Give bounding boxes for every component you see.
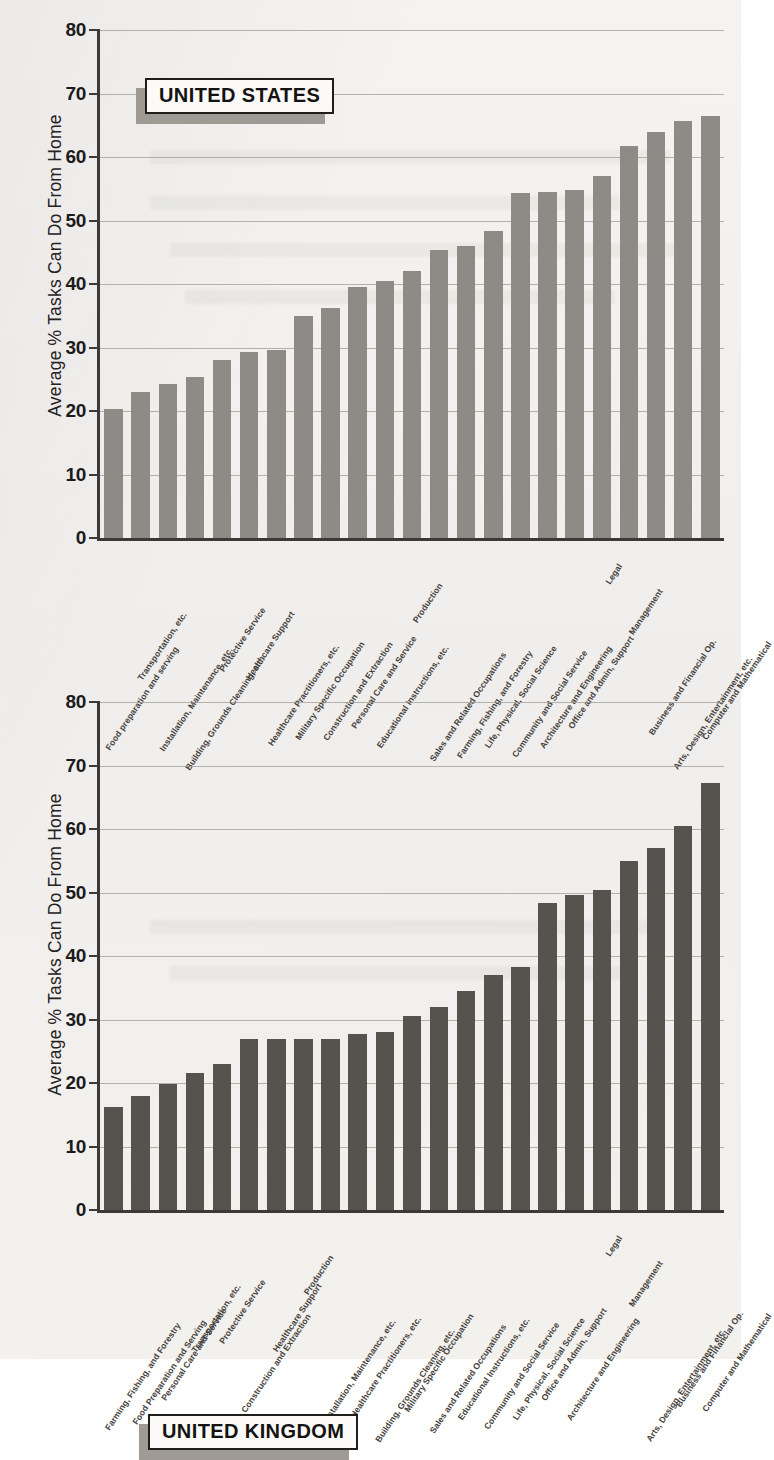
- bar: [538, 192, 556, 538]
- y-axis-tick: [89, 347, 100, 349]
- bar: [104, 1107, 122, 1210]
- bar: [131, 1096, 149, 1210]
- bar: [484, 231, 502, 538]
- callout-label: UNITED STATES: [145, 78, 334, 114]
- callout-united-states: UNITED STATES: [145, 78, 334, 114]
- bar: [593, 176, 611, 538]
- bar-slot: [561, 702, 588, 1210]
- bar-slot: [588, 30, 615, 538]
- bar: [376, 1032, 394, 1210]
- bar: [430, 250, 448, 538]
- bar: [593, 890, 611, 1210]
- chart-united-kingdom: Average % Tasks Can Do From Home 0102030…: [0, 672, 741, 1359]
- y-axis-tick: [89, 892, 100, 894]
- bar-slot: [371, 702, 398, 1210]
- bar-slot: [670, 30, 697, 538]
- bar: [403, 1016, 421, 1210]
- bar-slot: [507, 702, 534, 1210]
- bar: [538, 903, 556, 1210]
- bar-slot: [398, 702, 425, 1210]
- y-axis-tick-label: 60: [65, 146, 86, 168]
- y-axis-tick: [89, 93, 100, 95]
- bar-slot: [534, 702, 561, 1210]
- bar: [647, 848, 665, 1210]
- y-axis-tick: [89, 1019, 100, 1021]
- bar-slot: [697, 702, 724, 1210]
- bar-slot: [453, 30, 480, 538]
- bar: [267, 350, 285, 538]
- bar: [348, 1034, 366, 1210]
- bar-slot: [154, 702, 181, 1210]
- bar-slot: [127, 702, 154, 1210]
- bar: [565, 895, 583, 1210]
- bar-slot: [344, 30, 371, 538]
- bar: [186, 377, 204, 538]
- x-axis-label: Management: [627, 587, 665, 637]
- bar: [565, 190, 583, 538]
- y-axis-tick-label: 30: [65, 336, 86, 358]
- bar-slot: [480, 30, 507, 538]
- y-axis-tick: [89, 1146, 100, 1148]
- y-axis-tick: [89, 701, 100, 703]
- y-axis-tick-label: 50: [65, 209, 86, 231]
- y-axis-tick: [89, 1082, 100, 1084]
- y-axis-tick: [89, 474, 100, 476]
- bar: [403, 271, 421, 538]
- bar-slot: [317, 702, 344, 1210]
- y-axis-tick: [89, 955, 100, 957]
- bar: [701, 116, 719, 538]
- bar-slot: [480, 702, 507, 1210]
- x-axis-label: Management: [627, 1259, 665, 1309]
- bar: [267, 1039, 285, 1210]
- bar: [620, 861, 638, 1210]
- y-axis-label-us: Average % Tasks Can Do From Home: [45, 56, 66, 476]
- bar-slot: [453, 702, 480, 1210]
- y-axis-tick: [89, 29, 100, 31]
- bar-slot: [181, 702, 208, 1210]
- bar-slot: [263, 702, 290, 1210]
- x-axis-labels-us: Food preparation and servingTransportati…: [97, 543, 721, 668]
- bar: [484, 975, 502, 1210]
- bar: [213, 1064, 231, 1210]
- y-axis-tick-label: 70: [65, 82, 86, 104]
- bar-slot: [100, 702, 127, 1210]
- bar-slot: [534, 30, 561, 538]
- bar-slot: [643, 702, 670, 1210]
- y-axis-tick-label: 20: [65, 400, 86, 422]
- y-axis-tick: [89, 410, 100, 412]
- bar: [321, 308, 339, 538]
- y-axis-tick-label: 0: [76, 1199, 86, 1221]
- y-axis-tick: [89, 156, 100, 158]
- bar: [240, 1039, 258, 1210]
- bar: [159, 384, 177, 538]
- bar-slot: [209, 702, 236, 1210]
- bar: [376, 281, 394, 538]
- bar: [457, 246, 475, 538]
- bar-slot: [398, 30, 425, 538]
- bar: [701, 783, 719, 1210]
- y-axis-tick: [89, 537, 100, 539]
- x-axis-label: Construction and Extraction: [239, 1312, 313, 1415]
- y-axis-tick-label: 70: [65, 754, 86, 776]
- y-axis-tick-label: 20: [65, 1072, 86, 1094]
- x-axis-label: Legal: [603, 1234, 624, 1258]
- x-axis-label: Production: [411, 581, 445, 625]
- bar: [620, 146, 638, 538]
- bar-slot: [697, 30, 724, 538]
- bar-series: [100, 702, 724, 1210]
- x-axis-label: Healthcare Support: [271, 1281, 324, 1353]
- plot-area-uk: 01020304050607080: [97, 702, 724, 1210]
- y-axis-tick: [89, 765, 100, 767]
- bar: [131, 392, 149, 538]
- y-axis-tick-label: 80: [65, 19, 86, 41]
- bar: [511, 967, 529, 1210]
- bar-slot: [670, 702, 697, 1210]
- bar: [294, 316, 312, 538]
- y-axis-tick-label: 40: [65, 945, 86, 967]
- bar: [321, 1039, 339, 1210]
- bar-slot: [290, 702, 317, 1210]
- y-axis-tick-label: 60: [65, 818, 86, 840]
- y-axis-tick: [89, 828, 100, 830]
- y-axis-tick-label: 50: [65, 881, 86, 903]
- bar: [674, 121, 692, 538]
